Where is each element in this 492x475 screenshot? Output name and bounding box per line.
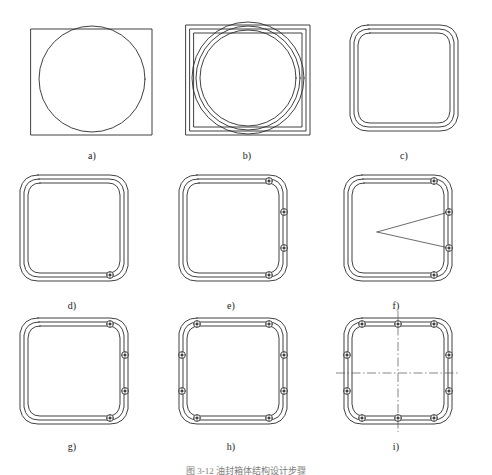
panel-label-b: b) <box>243 150 252 161</box>
bolt-hole <box>107 321 114 328</box>
circle-outline <box>39 26 145 132</box>
barrel-outline-inner <box>352 183 444 273</box>
bolt-hole <box>266 415 273 422</box>
bolt-hole <box>107 272 114 279</box>
bolt-hole <box>122 352 129 359</box>
bolt-hole <box>395 321 402 328</box>
bolt-hole <box>344 352 351 359</box>
bolt-hole <box>359 415 366 422</box>
bolt-hole <box>179 388 186 395</box>
panel-label-d: d) <box>68 300 77 311</box>
bolt-hole <box>266 321 273 328</box>
bolt-hole <box>281 245 288 252</box>
barrel-outline-outer <box>344 175 452 281</box>
panel-c-drawing <box>350 25 458 131</box>
construction-line-upper <box>377 212 449 232</box>
construction-line-lower <box>377 232 449 248</box>
panel-e-drawing <box>179 175 287 281</box>
barrel-outline-inner <box>358 33 450 123</box>
barrel-outline-middle <box>348 179 448 277</box>
panel-f-drawing <box>344 175 452 281</box>
figure-root: a) b) c) d) e) f) g) h) i) 图 3-12 油封箱体结构… <box>0 0 492 475</box>
bolt-hole <box>122 388 129 395</box>
barrel-outline-outer <box>20 318 128 424</box>
barrel-outline-outer <box>179 318 287 424</box>
barrel-outline-inner <box>28 326 120 416</box>
panel-d-drawing <box>20 175 128 281</box>
panel-label-e: e) <box>227 300 235 311</box>
barrel-outline-outer <box>20 175 128 281</box>
rectangle-outline-inner <box>194 33 302 127</box>
bolt-hole <box>446 388 453 395</box>
barrel-outline-middle <box>24 322 124 420</box>
panel-g-drawing <box>20 318 128 424</box>
rectangle-outline <box>31 29 152 135</box>
panel-i-drawing <box>336 311 460 432</box>
circle-outline-middle <box>196 26 300 130</box>
barrel-outline-inner <box>187 183 279 273</box>
barrel-outline-outer <box>350 25 458 131</box>
rectangle-outline-middle <box>190 29 306 131</box>
bolt-hole <box>431 415 438 422</box>
bolt-hole <box>194 415 201 422</box>
bolt-hole <box>179 352 186 359</box>
bolt-hole <box>107 415 114 422</box>
panel-a-drawing <box>31 26 152 135</box>
panel-label-f: f) <box>392 300 399 311</box>
bolt-hole <box>431 178 438 185</box>
barrel-outline-middle <box>183 322 283 420</box>
bolt-hole <box>266 178 273 185</box>
circle-outline-inner <box>200 30 296 126</box>
bolt-hole <box>281 388 288 395</box>
barrel-outline-middle <box>183 179 283 277</box>
bolt-hole <box>446 245 453 252</box>
panel-b-drawing <box>186 22 310 135</box>
panel-label-a: a) <box>88 150 96 161</box>
bolt-hole <box>194 321 201 328</box>
figure-drawing <box>0 0 492 475</box>
panel-label-c: c) <box>400 150 408 161</box>
bolt-hole <box>446 209 453 216</box>
figure-caption: 图 3-12 油封箱体结构设计步骤 <box>186 463 306 475</box>
panel-label-i: i) <box>393 441 400 452</box>
circle-outline-outer <box>192 22 304 134</box>
bolt-hole <box>431 321 438 328</box>
panel-label-h: h) <box>227 441 236 452</box>
panel-h-drawing <box>179 318 288 424</box>
barrel-outline-inner <box>187 326 279 416</box>
barrel-outline-outer <box>179 175 287 281</box>
barrel-outline-middle <box>354 29 454 127</box>
bolt-hole <box>266 272 273 279</box>
bolt-hole <box>359 321 366 328</box>
panel-label-g: g) <box>68 441 77 452</box>
bolt-hole <box>344 388 351 395</box>
barrel-outline-middle <box>24 179 124 277</box>
rectangle-outline-outer <box>186 25 310 135</box>
barrel-outline-inner <box>28 183 120 273</box>
bolt-hole <box>281 209 288 216</box>
bolt-hole <box>446 352 453 359</box>
bolt-hole <box>431 272 438 279</box>
bolt-hole <box>395 415 402 422</box>
bolt-hole <box>281 352 288 359</box>
